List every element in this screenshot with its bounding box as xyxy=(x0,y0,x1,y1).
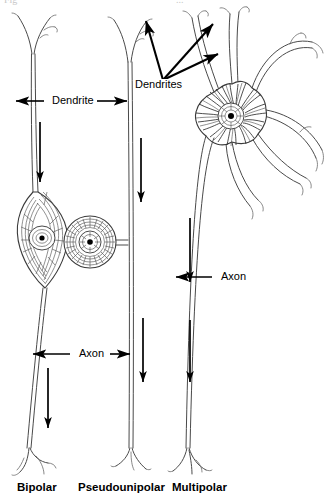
bipolar-dendrite-shaft-right xyxy=(35,54,38,192)
type-label-bipolar: Bipolar xyxy=(17,482,57,494)
bipolar-soma xyxy=(17,192,67,288)
dendrite-label: Dendrite xyxy=(49,95,97,106)
dendrites-label-arrows xyxy=(146,21,218,80)
bipolar-dendrite-terminals xyxy=(12,13,57,54)
bipolar-dendrite-shaft-left xyxy=(31,54,33,192)
multipolar-dendrite-upper-right xyxy=(252,33,323,92)
pseudounipolar-axon-left xyxy=(128,62,129,448)
multipolar-axon-right xyxy=(190,138,214,448)
type-label-pseudounipolar: Pseudounipolar xyxy=(78,482,165,494)
axon-label-bipolar: Axon xyxy=(76,348,107,359)
bipolar-neuron xyxy=(12,13,67,475)
pseudounipolar-axon-terminals xyxy=(111,448,151,470)
pseudounipolar-soma xyxy=(64,216,116,268)
neuron-types-figure: Fig ... xyxy=(0,0,331,500)
axon-label-multipolar: Axon xyxy=(218,271,249,282)
neuron-diagram-canvas xyxy=(0,0,331,500)
bipolar-axon-shaft-left xyxy=(27,288,43,448)
bipolar-axon-terminals xyxy=(12,448,56,475)
multipolar-dendrite-lower-mid xyxy=(226,142,263,219)
type-label-multipolar: Multipolar xyxy=(172,482,227,494)
multipolar-axon-terminals xyxy=(168,448,212,474)
flow-arrows xyxy=(40,122,190,428)
multipolar-neuron xyxy=(168,7,324,474)
pseudounipolar-axon-right xyxy=(132,62,133,448)
multipolar-dendrite-lower-right xyxy=(252,134,311,195)
multipolar-dendrite-right xyxy=(264,110,324,171)
bipolar-axon-shaft-right xyxy=(31,288,47,448)
dendrites-label: Dendrites xyxy=(133,79,184,90)
multipolar-dendrite-upper-mid xyxy=(220,7,249,84)
multipolar-axon-left xyxy=(186,136,206,448)
